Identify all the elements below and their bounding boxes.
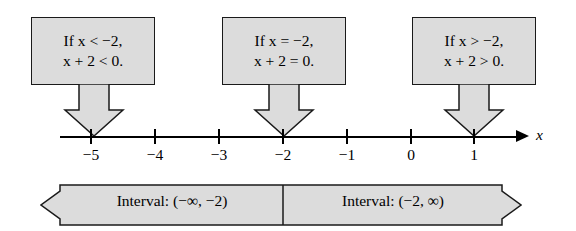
axis-variable-label: x [536, 126, 543, 144]
tick-mark [282, 129, 284, 144]
axis-arrowhead-icon [516, 130, 529, 142]
tick-mark [473, 129, 475, 144]
number-line-axis [60, 136, 520, 138]
callout-box-equal: If x = −2, x + 2 = 0. [222, 17, 346, 85]
tick-label: −1 [327, 146, 367, 164]
callout-line-1: If x < −2, [64, 31, 123, 51]
tick-label: 1 [454, 146, 494, 164]
interval-label-right: Interval: (−2, ∞) [285, 192, 501, 210]
tick-label: −3 [199, 146, 239, 164]
callout-line-2: x + 2 = 0. [254, 51, 314, 71]
interval-bar: Interval: (−∞, −2) Interval: (−2, ∞) [40, 184, 522, 226]
tick-mark [346, 129, 348, 144]
callout-line-1: If x = −2, [255, 31, 314, 51]
tick-label: 0 [391, 146, 431, 164]
tick-label: −2 [263, 146, 303, 164]
callout-line-2: x + 2 > 0. [444, 51, 504, 71]
callout-box-greater-than: If x > −2, x + 2 > 0. [412, 17, 536, 85]
callout-line-1: If x > −2, [445, 31, 504, 51]
callout-line-2: x + 2 < 0. [63, 51, 123, 71]
tick-mark [90, 129, 92, 144]
tick-mark [410, 129, 412, 144]
number-line-figure: If x < −2, x + 2 < 0. If x = −2, x + 2 =… [0, 0, 576, 231]
callout-box-less-than: If x < −2, x + 2 < 0. [31, 17, 155, 85]
callout-arrow-less-than [62, 84, 126, 142]
tick-label: −5 [71, 146, 111, 164]
tick-label: −4 [135, 146, 175, 164]
tick-mark [154, 129, 156, 144]
interval-label-left: Interval: (−∞, −2) [62, 192, 282, 210]
tick-mark [218, 129, 220, 144]
callout-arrow-equal [252, 84, 316, 142]
